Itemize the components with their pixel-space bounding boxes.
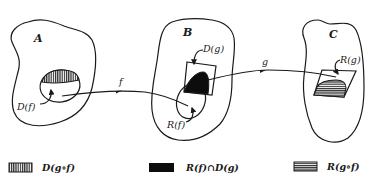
set-b: B D(g) R(f) [152,19,235,141]
legend: D(g∘f) R(f)∩D(g) R(g∘f) [9,161,360,173]
legend-item-range-f-intersect-domain-g: R(f)∩D(g) [149,162,239,173]
horizontal-hatch-swatch-icon [294,162,317,171]
domain-f-label: D(f) [16,101,36,112]
range-f-intersect-domain-g-region [184,72,209,94]
range-f-label: R(f) [166,119,185,130]
solid-black-swatch-icon [149,163,174,172]
arrow-g-head-icon [260,70,266,73]
arrow-g: g [208,56,336,80]
function-composition-diagram: A D(f) f B D(g) R(f) g C [0,0,372,187]
arrow-f-label: f [118,76,124,87]
arrow-g-label: g [262,56,268,67]
set-a: A D(f) [11,20,96,126]
legend-item-domain-gf: D(g∘f) [9,162,75,173]
vertical-hatch-swatch-icon [9,163,32,172]
arrow-g-path [208,70,336,80]
range-f-pointer [186,108,193,122]
legend-label-range-f-intersect-domain-g: R(f)∩D(g) [185,162,239,173]
legend-label-domain-gf: D(g∘f) [41,162,75,173]
legend-item-range-gf: R(g∘f) [294,161,360,172]
set-a-label: A [33,32,43,45]
range-gf-region [314,80,346,97]
arrow-f-path [62,91,188,106]
legend-label-range-gf: R(g∘f) [326,161,360,172]
range-g-label: R(g) [339,54,361,65]
arrow-f-head-icon [116,91,122,94]
domain-gf-region [42,70,79,83]
set-c: C R(g) [303,20,364,142]
set-c-label: C [329,28,338,41]
domain-g-pointer [194,50,203,64]
set-b-label: B [182,26,192,39]
domain-g-label: D(g) [202,43,224,54]
arrow-f: f [62,76,188,106]
